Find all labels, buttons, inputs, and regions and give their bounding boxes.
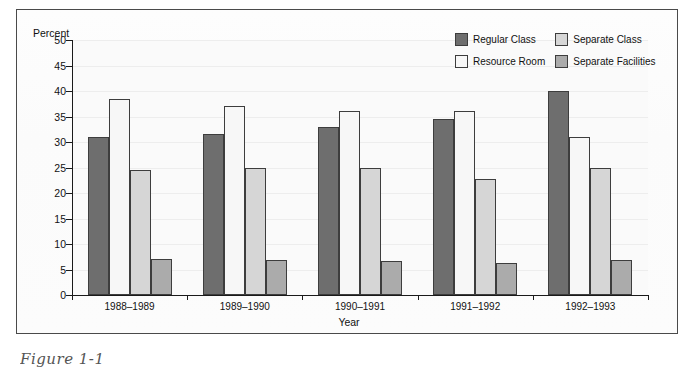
y-tick-label: 15: [36, 214, 66, 224]
y-tick-label: 25: [36, 163, 66, 173]
x-tick-mark: [418, 295, 419, 300]
bar: [130, 170, 151, 295]
x-tick-label: 1989–1990: [190, 301, 300, 312]
x-tick-mark: [648, 295, 649, 300]
y-tick-mark: [66, 117, 72, 118]
x-tick-label: 1988–1989: [75, 301, 185, 312]
bar: [266, 260, 287, 295]
x-tick-mark: [533, 295, 534, 300]
y-tick-mark: [66, 91, 72, 92]
bar: [381, 261, 402, 295]
bar: [475, 179, 496, 295]
bar: [318, 127, 339, 295]
y-tick-label: 40: [36, 86, 66, 96]
plot-area: [72, 40, 648, 295]
bar: [339, 111, 360, 295]
bar-group: [431, 40, 519, 295]
y-tick-mark: [66, 168, 72, 169]
y-tick-label: 0: [36, 290, 66, 300]
y-tick-label: 50: [36, 35, 66, 45]
legend-swatch: [555, 55, 568, 68]
legend-swatch: [455, 33, 468, 46]
bar-group: [316, 40, 404, 295]
y-tick-mark: [66, 270, 72, 271]
legend-swatch: [455, 55, 468, 68]
legend-entry: Resource Room: [455, 55, 545, 68]
y-tick-mark: [66, 142, 72, 143]
bar: [454, 111, 475, 295]
bar: [224, 106, 245, 295]
x-tick-label: 1992–1993: [535, 301, 645, 312]
bar: [88, 137, 109, 295]
bar: [203, 134, 224, 295]
legend-label: Regular Class: [473, 34, 536, 45]
bar-group: [86, 40, 174, 295]
legend-label: Separate Facilities: [573, 56, 655, 67]
bar: [109, 99, 130, 295]
bar: [360, 168, 381, 296]
x-tick-label: 1990–1991: [305, 301, 415, 312]
figure-caption: Figure 1-1: [20, 350, 104, 368]
bar: [590, 168, 611, 296]
x-tick-label: 1991–1992: [420, 301, 530, 312]
bar: [151, 259, 172, 295]
x-axis-line: [72, 295, 649, 296]
legend-label: Resource Room: [473, 56, 545, 67]
y-tick-label: 35: [36, 112, 66, 122]
y-tick-mark: [66, 66, 72, 67]
y-tick-label: 30: [36, 137, 66, 147]
x-tick-mark: [72, 295, 73, 300]
bar: [569, 137, 590, 295]
y-tick-label: 5: [36, 265, 66, 275]
legend-label: Separate Class: [573, 34, 641, 45]
legend-entry: Separate Class: [555, 33, 655, 46]
legend-swatch: [555, 33, 568, 46]
y-tick-mark: [66, 244, 72, 245]
bar-group: [546, 40, 634, 295]
x-tick-mark: [302, 295, 303, 300]
y-tick-mark: [66, 193, 72, 194]
y-axis-labels: 50454035302520151050: [30, 0, 66, 340]
bar: [496, 263, 517, 295]
y-axis-line: [72, 40, 73, 296]
y-tick-mark: [66, 219, 72, 220]
bar: [245, 168, 266, 296]
y-tick-mark: [66, 40, 72, 41]
chart-legend: Regular ClassSeparate ClassResource Room…: [455, 29, 656, 71]
x-tick-mark: [187, 295, 188, 300]
y-tick-label: 10: [36, 239, 66, 249]
y-tick-label: 20: [36, 188, 66, 198]
legend-entry: Regular Class: [455, 33, 545, 46]
bar: [548, 91, 569, 295]
x-axis-title: Year: [0, 316, 698, 328]
legend-entry: Separate Facilities: [555, 55, 655, 68]
bar: [433, 119, 454, 295]
bar: [611, 260, 632, 295]
bar-group: [201, 40, 289, 295]
y-tick-label: 45: [36, 61, 66, 71]
